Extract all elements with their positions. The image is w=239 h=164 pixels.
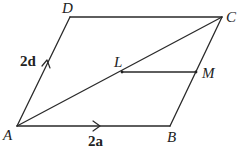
label-b: B — [167, 129, 176, 145]
point-l — [121, 71, 124, 74]
label-m: M — [201, 65, 216, 81]
label-a: A — [2, 127, 13, 143]
label-l: L — [113, 54, 122, 70]
vector-label-2a: 2a — [88, 133, 104, 149]
label-d: D — [61, 0, 73, 16]
cut-caption — [0, 158, 239, 164]
point-m — [195, 71, 198, 74]
vector-label-2d: 2d — [20, 53, 37, 69]
label-c: C — [226, 9, 237, 25]
parallelogram-diagram: D C A B L M 2d 2a — [0, 0, 239, 164]
edge-da — [17, 17, 70, 126]
